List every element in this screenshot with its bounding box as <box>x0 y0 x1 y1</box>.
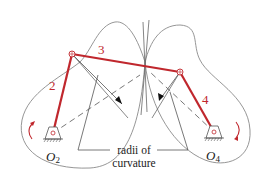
ground-o4-symbol <box>204 126 224 141</box>
ground-o2-symbol <box>43 127 63 142</box>
ground-o4-sub: 4 <box>215 154 220 164</box>
joint-a <box>69 51 75 57</box>
ground-o4-main: O <box>206 148 215 163</box>
linkage-diagram: 2 3 4 O2 O4 radii of curvature <box>0 0 266 186</box>
rotation-arrow-o2-icon <box>29 124 32 139</box>
callout-line-1-text: radii of <box>110 145 158 157</box>
link-2 <box>53 54 72 133</box>
link-3 <box>72 54 180 72</box>
link-3-label: 3 <box>98 43 105 56</box>
callout-line-left <box>78 75 110 150</box>
dashed-line-left <box>53 75 140 133</box>
callout-line-right <box>157 92 188 150</box>
ground-o4-label: O4 <box>206 149 220 164</box>
radii-callout: radii of curvature <box>110 145 158 169</box>
ground-o2-main: O <box>46 149 55 164</box>
construction-line-1 <box>72 54 128 118</box>
link-2-label: 2 <box>49 79 56 92</box>
joint-b <box>177 69 183 75</box>
right-curve <box>145 25 250 163</box>
rotation-arrow-o4-icon <box>236 122 239 138</box>
ground-o2-label: O2 <box>46 150 60 165</box>
ground-o2-sub: 2 <box>55 155 60 165</box>
arrowhead-a <box>115 96 122 104</box>
link-4-label: 4 <box>202 93 209 106</box>
callout-line-2-text: curvature <box>110 158 158 170</box>
